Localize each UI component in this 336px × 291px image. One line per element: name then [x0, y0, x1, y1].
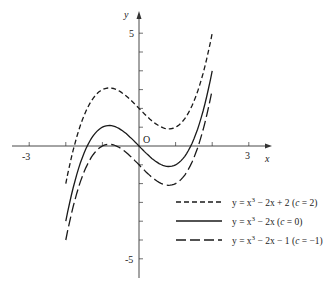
y-tick-label-neg5: -5 — [125, 254, 133, 265]
x-tick-label-3: 3 — [245, 150, 250, 161]
legend-label: y = x3 − 2x − 1 (c = −1) — [232, 234, 323, 247]
x-axis-label: x — [264, 153, 270, 164]
legend: y = x3 − 2x + 2 (c = 2)y = x3 − 2x (c = … — [176, 196, 323, 247]
y-axis-arrow-icon — [137, 11, 142, 19]
y-axis-label: y — [123, 9, 129, 20]
axis-labels: y x O -3 3 5 -5 — [22, 9, 270, 265]
origin-label: O — [143, 134, 150, 145]
legend-label: y = x3 − 2x + 2 (c = 2) — [232, 196, 317, 209]
legend-label: y = x3 − 2x (c = 0) — [232, 215, 303, 228]
x-tick-label-neg3: -3 — [22, 151, 30, 162]
cubic-family-chart: y x O -3 3 5 -5 y = x3 − 2x + 2 (c = 2)y… — [0, 0, 336, 291]
y-tick-label-5: 5 — [129, 28, 134, 39]
x-axis-arrow-icon — [265, 144, 272, 149]
